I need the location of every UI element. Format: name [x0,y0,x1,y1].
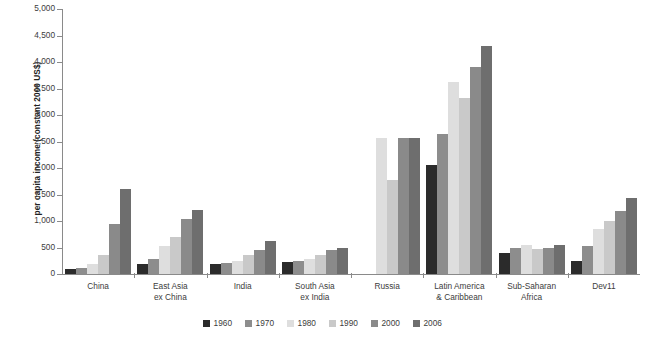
y-axis-tick-label: 3,500 [34,83,55,93]
y-axis-tick-label: 0 [50,268,55,278]
y-axis-tick-label: 4,000 [34,56,55,66]
y-axis-tick-mark [57,274,62,275]
bar-1980 [376,138,387,274]
bar-1980 [87,264,98,274]
bar-1990 [459,98,470,274]
bar-1970 [221,263,232,274]
legend-item[interactable]: 1990 [329,318,358,328]
legend-swatch-icon [413,320,420,327]
plot-area: 05001,0001,5002,0002,5003,0003,5004,0004… [62,9,640,274]
x-axis-label: East Asia ex China [134,281,206,302]
bar-1980 [159,246,170,274]
bar-group-bars [279,9,351,274]
x-axis-label: Dev11 [568,281,640,292]
bar-1960 [426,165,437,274]
legend-item[interactable]: 1960 [203,318,232,328]
chart-legend: 196019701980199020002006 [0,318,645,328]
legend-label: 1970 [256,318,274,328]
y-axis-tick-label: 1,500 [34,189,55,199]
legend-label: 1960 [214,318,232,328]
bar-2006 [626,198,637,274]
bar-group [496,9,568,274]
bar-2000 [543,248,554,274]
bar-1990 [387,180,398,274]
bar-1960 [65,269,76,274]
bar-group-bars [207,9,279,274]
bar-2000 [254,250,265,274]
bar-1970 [510,248,521,275]
legend-item[interactable]: 1980 [287,318,316,328]
bar-1990 [170,237,181,274]
legend-label: 1980 [298,318,316,328]
legend-swatch-icon [245,320,252,327]
bar-group-bars [423,9,495,274]
bar-group [568,9,640,274]
legend-label: 2000 [381,318,399,328]
bar-1980 [304,259,315,274]
bar-2006 [409,138,420,274]
bar-group [62,9,134,274]
bar-1980 [448,82,459,274]
bar-1960 [282,262,293,274]
legend-swatch-icon [203,320,210,327]
y-axis-tick-label: 2,000 [34,162,55,172]
bar-group [423,9,495,274]
bar-group [351,9,423,274]
x-axis-label: China [62,281,134,292]
y-axis-tick-label: 4,500 [34,30,55,40]
bar-group [207,9,279,274]
bar-2006 [337,248,348,275]
y-axis-tick-label: 3,000 [34,109,55,119]
legend-item[interactable]: 1970 [245,318,274,328]
bar-group-bars [496,9,568,274]
bar-2000 [109,224,120,274]
bar-2006 [192,210,203,274]
bar-2000 [326,250,337,274]
bar-2006 [481,46,492,274]
legend-item[interactable]: 2006 [413,318,442,328]
bar-1990 [532,249,543,274]
legend-item[interactable]: 2000 [371,318,400,328]
legend-swatch-icon [371,320,378,327]
legend-swatch-icon [329,320,336,327]
bar-1990 [315,255,326,274]
legend-swatch-icon [287,320,294,327]
bar-1960 [571,261,582,274]
y-axis-tick-label: 5,000 [34,3,55,13]
bar-2006 [265,241,276,274]
bar-1990 [243,255,254,274]
bar-group-bars [351,9,423,274]
bar-2000 [470,67,481,274]
bar-1960 [137,264,148,274]
x-axis-label: South Asia ex India [279,281,351,302]
legend-label: 2006 [423,318,441,328]
x-axis-label: Russia [351,281,423,292]
x-axis-label: Latin America & Caribbean [423,281,495,302]
bar-group [279,9,351,274]
bar-group [134,9,206,274]
bar-1980 [521,245,532,274]
legend-label: 1990 [340,318,358,328]
bar-chart: per capita income (constant 2000 US$) 05… [0,0,645,342]
bar-1960 [210,264,221,274]
y-axis-tick-label: 1,000 [34,215,55,225]
y-axis-tick-label: 2,500 [34,136,55,146]
bar-2000 [615,211,626,274]
bar-group-bars [62,9,134,274]
bar-1990 [98,255,109,274]
bar-1960 [499,253,510,274]
bar-1970 [148,259,159,274]
bar-1980 [232,261,243,274]
bar-2006 [120,189,131,274]
x-axis-label: Sub-Saharan Africa [496,281,568,302]
bar-1970 [437,134,448,274]
bar-2000 [181,219,192,274]
bar-1970 [76,268,87,274]
bar-1990 [604,221,615,274]
x-axis-label: India [207,281,279,292]
bar-2000 [398,138,409,274]
bar-1970 [293,261,304,274]
y-axis-tick-label: 500 [41,242,55,252]
bar-1980 [593,229,604,274]
bar-group-bars [568,9,640,274]
